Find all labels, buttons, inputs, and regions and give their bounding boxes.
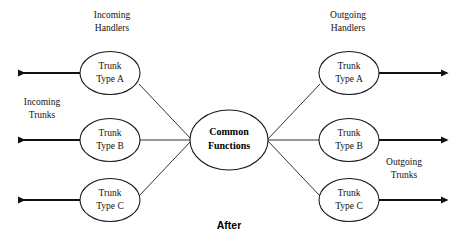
link-left-a-to-hub <box>139 84 192 140</box>
outgoing-handlers-line2: Handlers <box>331 23 366 33</box>
node-outgoing-trunk-type-c[interactable]: Trunk Type C <box>319 179 379 222</box>
node-label-line2: Type C <box>335 201 363 211</box>
node-incoming-trunk-type-c[interactable]: Trunk Type C <box>80 179 140 222</box>
incoming-handlers-line1: Incoming <box>94 10 131 20</box>
link-left-c-to-hub <box>139 140 192 196</box>
node-incoming-trunk-type-a[interactable]: Trunk Type A <box>80 52 140 95</box>
node-ellipse-shape <box>80 179 140 222</box>
label-outgoing-handlers: Outgoing Handlers <box>330 10 366 33</box>
outgoing-trunks-line1: Outgoing <box>386 157 422 167</box>
node-label-line2: Type B <box>335 141 363 151</box>
node-ellipse-shape <box>319 179 379 222</box>
label-incoming-trunks: Incoming Trunks <box>24 97 61 120</box>
node-label-line2: Type A <box>335 74 363 84</box>
node-label-line1: Trunk <box>99 188 122 198</box>
link-hub-to-right-a <box>267 84 320 140</box>
incoming-handlers-line2: Handlers <box>95 23 130 33</box>
label-outgoing-trunks: Outgoing Trunks <box>386 157 422 180</box>
diagram-canvas: Incoming Handlers Outgoing Handlers Inco… <box>0 0 459 241</box>
node-ellipse-shape <box>80 119 140 162</box>
hub-label-line2: Functions <box>208 140 250 151</box>
outgoing-trunks-line2: Trunks <box>391 170 418 180</box>
node-label-line1: Trunk <box>99 61 122 71</box>
label-incoming-handlers: Incoming Handlers <box>94 10 131 33</box>
diagram-caption: After <box>217 219 242 231</box>
incoming-trunks-line2: Trunks <box>29 110 56 120</box>
node-label-line2: Type A <box>96 74 124 84</box>
hub-label-line1: Common <box>209 126 249 137</box>
node-outgoing-trunk-type-b[interactable]: Trunk Type B <box>319 119 379 162</box>
node-common-functions-hub[interactable]: Common Functions <box>190 110 268 170</box>
node-label-line2: Type C <box>96 201 124 211</box>
node-ellipse-shape <box>80 52 140 95</box>
node-label-line2: Type B <box>96 141 124 151</box>
node-label-line1: Trunk <box>99 128 122 138</box>
outgoing-handlers-line1: Outgoing <box>330 10 366 20</box>
link-hub-to-right-c <box>267 140 320 196</box>
node-label-line1: Trunk <box>338 128 361 138</box>
node-outgoing-trunk-type-a[interactable]: Trunk Type A <box>319 52 379 95</box>
node-ellipse-shape <box>319 52 379 95</box>
node-incoming-trunk-type-b[interactable]: Trunk Type B <box>80 119 140 162</box>
diagram-root: Incoming Handlers Outgoing Handlers Inco… <box>0 0 459 241</box>
node-label-line1: Trunk <box>338 61 361 71</box>
node-ellipse-shape <box>319 119 379 162</box>
node-label-line1: Trunk <box>338 188 361 198</box>
incoming-trunks-line1: Incoming <box>24 97 61 107</box>
